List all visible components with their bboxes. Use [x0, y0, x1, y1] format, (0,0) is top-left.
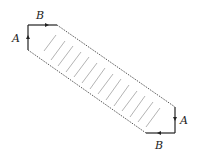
label-B-top: B — [35, 9, 44, 22]
dotted-upper-edge — [57, 25, 175, 107]
arrow-bottom-icon — [157, 131, 161, 135]
strip-outline — [28, 25, 175, 133]
arrow-left-icon — [26, 35, 30, 39]
arrow-right-icon — [173, 117, 177, 121]
diagram-canvas: B A A B — [0, 0, 197, 156]
arrow-markers — [26, 23, 177, 135]
arrow-top-icon — [45, 23, 49, 27]
hatch-lines — [44, 35, 160, 127]
label-A-left: A — [11, 32, 20, 45]
dotted-lower-edge — [28, 50, 146, 133]
label-B-bottom: B — [154, 139, 163, 152]
label-A-right: A — [179, 114, 188, 127]
